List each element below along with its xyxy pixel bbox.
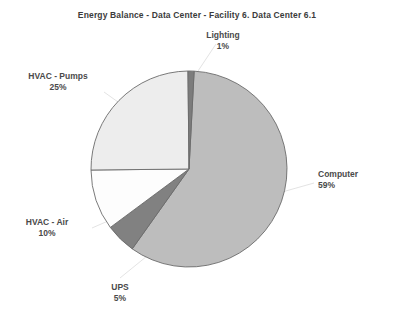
slice-label-hvac-pumps: HVAC - Pumps 25% [10, 71, 106, 93]
slice-label-hvac-pumps-percent: 25% [10, 82, 106, 93]
slice-label-hvac-air-name: HVAC - Air [4, 217, 90, 228]
slice-label-hvac-air: HVAC - Air 10% [4, 217, 90, 239]
chart-page: Energy Balance - Data Center - Facility … [0, 0, 394, 324]
pie-slices [91, 71, 287, 267]
slice-label-hvac-pumps-name: HVAC - Pumps [10, 71, 106, 82]
slice-label-lighting: Lighting 1% [178, 30, 268, 52]
slice-label-lighting-percent: 1% [178, 41, 268, 52]
slice-label-lighting-name: Lighting [178, 30, 268, 41]
slice-label-hvac-air-percent: 10% [4, 228, 90, 239]
slice-label-ups-name: UPS [92, 282, 148, 293]
slice-label-computer-name: Computer [318, 169, 394, 180]
slice-label-computer: Computer 59% [318, 169, 394, 191]
slice-label-computer-percent: 59% [318, 180, 394, 191]
slice-label-ups: UPS 5% [92, 282, 148, 304]
slice-label-ups-percent: 5% [92, 293, 148, 304]
